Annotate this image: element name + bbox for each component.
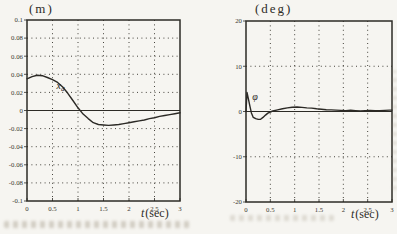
curve-label-x_d: xd xyxy=(56,80,65,93)
dual-line-plots: 0.10.080.060.040.020-0.02-0.04-0.06-0.08… xyxy=(0,0,397,234)
y-tick-label: -10 xyxy=(233,153,243,160)
y-tick-label: 0.02 xyxy=(11,89,23,96)
y-tick-label: 0.08 xyxy=(11,34,23,41)
x-tick-label: 3 xyxy=(178,205,182,212)
y-tick-label: -0.06 xyxy=(9,161,24,168)
y-tick-label: -20 xyxy=(233,198,243,205)
y-tick-label: 0 xyxy=(239,108,243,115)
x-tick-label: 1.5 xyxy=(99,205,108,212)
x-tick-label: 1.5 xyxy=(315,206,324,213)
y-tick-label: -0.04 xyxy=(9,143,24,150)
y-tick-label: -0.02 xyxy=(9,125,24,132)
right-xaxis-label: t(sec) xyxy=(351,207,379,222)
x-tick-label: 3 xyxy=(390,206,394,213)
curve-label-phi: φ xyxy=(252,91,258,102)
x-tick-label: 1 xyxy=(293,206,296,213)
x-tick-label: 0.5 xyxy=(266,206,275,213)
x-tick-label: 0 xyxy=(25,205,29,212)
y-tick-label: 0.06 xyxy=(11,53,23,60)
y-tick-label: 20 xyxy=(235,17,242,24)
left-xaxis-label: t(sec) xyxy=(141,206,169,221)
right-xaxis-label-t: t xyxy=(351,207,354,221)
y-tick-label: 0 xyxy=(20,107,24,114)
x-tick-label: 2 xyxy=(342,206,346,213)
left-xaxis-label-sec: (sec) xyxy=(145,206,168,220)
x-tick-label: 2 xyxy=(127,205,131,212)
right-xaxis-label-sec: (sec) xyxy=(355,207,378,221)
y-tick-label: -0.1 xyxy=(12,197,23,204)
y-tick-label: 0.1 xyxy=(15,16,24,23)
y-tick-label: 10 xyxy=(235,63,242,70)
y-tick-label: 0.04 xyxy=(11,71,23,78)
y-tick-label: -0.08 xyxy=(9,179,24,186)
scanned-figure-page: (m) (deg) 0.10.080.060.040.020-0.02-0.04… xyxy=(0,0,397,234)
x-tick-label: 0 xyxy=(244,206,248,213)
x-tick-label: 1 xyxy=(76,205,79,212)
x-tick-label: 0.5 xyxy=(48,205,57,212)
left-xaxis-label-t: t xyxy=(141,206,144,220)
series-x_d xyxy=(27,75,180,125)
